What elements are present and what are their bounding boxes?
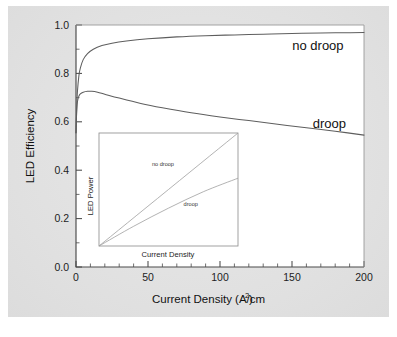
y-tick-label: 0.2 <box>54 212 69 224</box>
annotation-no-droop: no droop <box>292 38 343 53</box>
x-axis-title-group: Current Density (A/cm 2 ) <box>152 291 265 305</box>
y-tick-label: 0.8 <box>54 67 69 79</box>
y-axis-title: LED Efficiency <box>24 108 36 183</box>
x-tick-label: 150 <box>283 271 301 283</box>
x-axis-title-tail: ) <box>249 293 253 305</box>
y-tick-label: 0.0 <box>54 261 69 273</box>
x-tick-label: 50 <box>142 271 154 283</box>
inset-chart: no droopdroop LED Power Current Density <box>86 133 238 259</box>
y-tick-label: 1.0 <box>54 19 69 31</box>
y-tick-label: 0.4 <box>54 164 69 176</box>
x-tick-label: 100 <box>211 271 229 283</box>
y-axis-tick-labels: 0.00.20.40.60.81.0 <box>54 19 69 273</box>
x-tick-label: 200 <box>355 271 373 283</box>
inset-annotation-droop: droop <box>184 201 198 207</box>
x-tick-label: 0 <box>73 271 79 283</box>
inset-annotation-no-droop: no droop <box>152 161 174 167</box>
inset-y-axis-title: LED Power <box>86 176 95 215</box>
annotation-droop: droop <box>313 116 346 131</box>
x-axis-tick-labels: 050100150200 <box>73 271 373 283</box>
figure-root: 0.00.20.40.60.81.0 050100150200 no droop… <box>0 0 397 337</box>
led-efficiency-chart: 0.00.20.40.60.81.0 050100150200 no droop… <box>0 0 397 337</box>
y-tick-label: 0.6 <box>54 115 69 127</box>
inset-x-axis-title: Current Density <box>142 250 195 259</box>
